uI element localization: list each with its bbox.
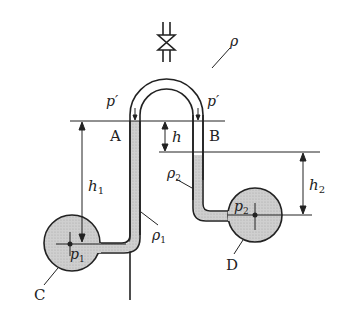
label-rho2: ρ2 [166, 165, 181, 183]
label-point-b: B [209, 127, 220, 145]
label-point-a: A [109, 127, 121, 145]
label-p-prime-right: p′ [207, 93, 220, 109]
label-vessel-c: C [34, 286, 45, 304]
manometer-diagram: ρ p′ p′ A B h h1 h2 ρ1 ρ2 p1 p2 C D [0, 0, 346, 320]
valve-icon [158, 22, 175, 62]
vessel-d [228, 188, 312, 242]
p-prime-arrows [133, 108, 200, 120]
label-h2: h2 [309, 176, 325, 195]
label-h1: h1 [88, 177, 104, 196]
label-rho1: ρ1 [151, 227, 166, 245]
inverted-u-tube [130, 79, 203, 300]
label-vessel-d: D [226, 256, 238, 274]
label-rho: ρ [229, 33, 239, 49]
reference-lines [70, 121, 320, 152]
label-p-prime-left: p′ [106, 93, 119, 109]
dimension-h [162, 122, 168, 151]
dimension-h2 [300, 153, 306, 214]
label-h: h [172, 128, 182, 146]
